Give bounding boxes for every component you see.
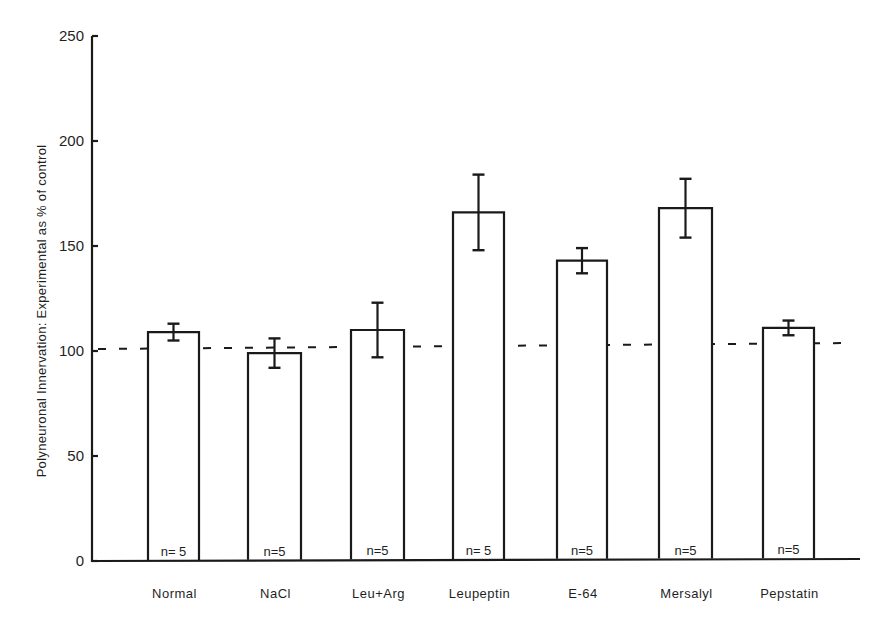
n-label: n=5 [366,543,388,558]
y-tick-label: 150 [59,237,84,254]
x-category-label: Leu+Arg [352,586,405,601]
y-tick-label: 0 [76,552,84,569]
x-category-label: NaCl [260,586,291,601]
bar-mersalyl: n=5Mersalyl [659,179,713,601]
n-label: n=5 [674,543,696,558]
bar-leupeptin: n= 5Leupeptin [449,175,511,601]
x-category-label: E-64 [568,586,597,601]
x-category-label: Normal [152,586,197,601]
bar-e-64: n=5E-64 [557,248,607,601]
bar-chart: 050100150200250 n= 5Normaln=5NaCln=5Leu+… [0,0,881,618]
y-tick-label: 200 [59,132,84,149]
n-label: n=5 [263,544,285,559]
n-label: n= 5 [466,543,492,558]
bar-leu-arg: n=5Leu+Arg [351,303,405,601]
y-axis: 050100150200250 [59,27,98,569]
x-category-label: Leupeptin [449,586,511,601]
y-tick-label: 100 [59,342,84,359]
x-category-label: Pepstatin [760,586,819,601]
n-label: n=5 [777,542,799,557]
y-tick-label: 50 [67,447,84,464]
bars: n= 5Normaln=5NaCln=5Leu+Argn= 5Leupeptin… [148,175,819,601]
x-category-label: Mersalyl [660,586,712,601]
n-label: n= 5 [161,544,187,559]
n-label: n=5 [571,543,593,558]
y-tick-label: 250 [59,27,84,44]
y-axis-title: Polyneuronal Innervation: Experimental a… [34,145,49,478]
bar-normal: n= 5Normal [148,324,199,601]
x-axis [92,559,860,561]
